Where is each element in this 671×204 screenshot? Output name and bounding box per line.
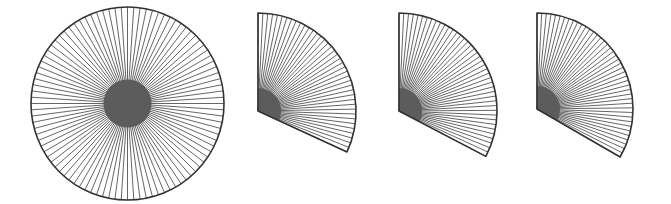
fan-sector-3 — [537, 13, 633, 157]
spoke-diagram-canvas — [0, 0, 671, 204]
full-circle-wheel — [31, 7, 224, 200]
fan-sector-1 — [258, 13, 356, 152]
hub-disk — [104, 80, 152, 128]
fan-sector-2 — [399, 13, 497, 156]
